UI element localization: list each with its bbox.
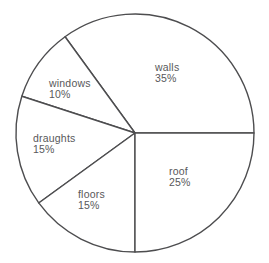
slice-value-windows: 10% [49,88,71,100]
slice-value-floors: 15% [78,199,100,211]
pie-chart-canvas: walls35%windows10%draughts15%floors15%ro… [0,0,269,263]
slice-value-draughts: 15% [33,143,55,155]
pie-chart: walls35%windows10%draughts15%floors15%ro… [0,0,269,263]
slice-value-walls: 35% [155,72,177,84]
slice-value-roof: 25% [169,176,191,188]
pie-slice-roof [135,133,254,252]
